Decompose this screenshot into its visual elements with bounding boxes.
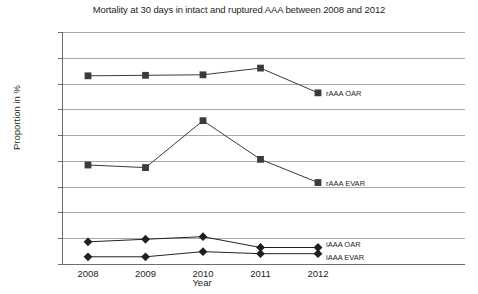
series-line-raaa-evar xyxy=(88,121,318,183)
data-point xyxy=(257,156,264,163)
series-label-iaaa-oar: iAAA OAR xyxy=(326,240,361,249)
data-point xyxy=(84,237,93,246)
data-point xyxy=(141,252,150,261)
data-point xyxy=(315,89,322,96)
data-point xyxy=(142,164,149,171)
data-point xyxy=(200,117,207,124)
data-point xyxy=(85,72,92,79)
gridline-0 xyxy=(62,264,465,265)
data-point xyxy=(142,72,149,79)
chart-container: Mortality at 30 days in intact and ruptu… xyxy=(0,0,478,294)
series-label-raaa-oar: rAAA OAR xyxy=(326,89,361,98)
chart-title: Mortality at 30 days in intact and ruptu… xyxy=(0,4,478,15)
y-axis-label: Proportion in % xyxy=(11,68,22,168)
series-label-raaa-evar: rAAA EVAR xyxy=(326,179,365,188)
plot-area: 45 %40 %35 %30 %25 %20 %15 %10 %5 % 2008… xyxy=(62,32,465,264)
data-point xyxy=(256,249,265,258)
data-point xyxy=(199,247,208,256)
data-point xyxy=(315,179,322,186)
data-point xyxy=(314,249,323,258)
series-label-iaaa-evar: iAAA EVAR xyxy=(326,253,364,262)
x-axis-label: Year xyxy=(62,277,342,288)
data-point xyxy=(257,65,264,72)
data-point xyxy=(199,232,208,241)
series-layer xyxy=(62,32,465,264)
data-point xyxy=(85,162,92,169)
data-point xyxy=(84,252,93,261)
data-point xyxy=(200,71,207,78)
data-point xyxy=(141,235,150,244)
y-tick-mark-0 xyxy=(58,264,63,265)
